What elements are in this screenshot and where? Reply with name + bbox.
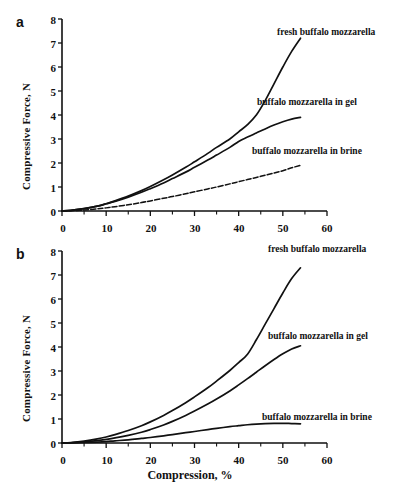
chart-panel-a: a Compressive Force, N 8 7 6 5 4 3 2 1 0… [0, 0, 399, 250]
chart-panel-b: b Compressive Force, N Compression, % 8 … [0, 232, 399, 501]
curve-buffalo-mozzarella-in-brine [62, 165, 301, 211]
plot-area-a [0, 0, 399, 250]
curve-buffalo-mozzarella-in-gel [62, 346, 301, 443]
curve-fresh-buffalo-mozzarella [62, 38, 301, 211]
plot-area-b [0, 232, 399, 482]
curve-buffalo-mozzarella-in-gel [62, 117, 301, 211]
figure-container: a Compressive Force, N 8 7 6 5 4 3 2 1 0… [0, 0, 399, 501]
